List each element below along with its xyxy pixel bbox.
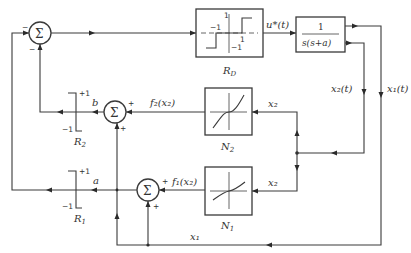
- nonlinear-block-n1: [205, 167, 252, 215]
- arrow-icon: [290, 31, 296, 36]
- label-n1: N1: [220, 220, 234, 233]
- svg-text:−: −: [29, 45, 35, 54]
- arrow-icon: [89, 31, 95, 36]
- arrow-icon: [295, 130, 300, 136]
- svg-text:+: +: [128, 99, 134, 108]
- svg-text:+: +: [162, 177, 168, 186]
- arrow-icon: [159, 188, 165, 193]
- svg-text:Σ: Σ: [110, 106, 118, 120]
- svg-text:+1: +1: [79, 89, 90, 98]
- svg-text:Σ: Σ: [143, 184, 151, 198]
- svg-text:−1: −1: [62, 125, 73, 134]
- label-f2: f₂(x₂): [149, 97, 175, 108]
- label-r2: R2: [73, 136, 87, 149]
- svg-text:1: 1: [240, 35, 245, 44]
- label-u-star: u*(t): [266, 19, 289, 30]
- svg-text:s(s+a): s(s+a): [302, 38, 332, 48]
- arrow-icon: [252, 189, 258, 194]
- label-x2-t: x₂(t): [331, 83, 353, 94]
- svg-text:+1: +1: [79, 167, 90, 176]
- label-b: b: [92, 97, 98, 108]
- label-rd: RD: [222, 65, 237, 78]
- arrow-icon: [295, 165, 300, 171]
- svg-text:+: +: [120, 124, 126, 133]
- signal-line-x2: [297, 43, 364, 153]
- label-n2: N2: [220, 141, 235, 154]
- arrow-icon: [115, 123, 120, 129]
- arrow-icon: [352, 24, 358, 29]
- arrow-icon: [115, 213, 120, 219]
- relay-r1: +1 −1: [62, 167, 90, 211]
- arrow-icon: [346, 41, 352, 46]
- arrow-icon: [46, 188, 52, 193]
- arrow-icon: [362, 89, 367, 95]
- arrow-icon: [57, 110, 63, 115]
- plant-transfer-function: 1 s(s+a): [296, 17, 345, 52]
- arrow-icon: [190, 31, 196, 36]
- svg-text:−1: −1: [210, 23, 221, 32]
- svg-text:Σ: Σ: [35, 27, 43, 41]
- label-a: a: [93, 175, 99, 186]
- summer-main: Σ − −: [22, 22, 51, 54]
- svg-text:−: −: [22, 23, 28, 32]
- summer-lower: Σ + +: [137, 177, 168, 211]
- arrow-icon: [379, 92, 384, 98]
- arrow-icon: [92, 110, 98, 115]
- svg-text:+: +: [153, 202, 159, 211]
- block-diagram: Σ − − 1 −1 −1 1 RD u*(t) 1 s(s+a) x₁(t) …: [0, 0, 411, 253]
- label-x1-t: x₁(t): [387, 83, 409, 94]
- arrow-icon: [146, 201, 151, 207]
- arrow-icon: [126, 110, 132, 115]
- arrow-icon: [91, 188, 97, 193]
- svg-text:1: 1: [224, 11, 229, 20]
- arrow-icon: [252, 110, 258, 115]
- svg-text:1: 1: [318, 22, 324, 32]
- label-r1: R1: [73, 213, 86, 226]
- arrow-icon: [331, 151, 337, 156]
- label-x1-bottom: x₁: [190, 231, 200, 242]
- svg-text:−1: −1: [231, 43, 242, 52]
- svg-text:−1: −1: [62, 202, 73, 211]
- label-x2-n1: x₂: [268, 177, 278, 188]
- arrow-icon: [38, 44, 43, 50]
- label-f1: f₁(x₂): [171, 176, 197, 187]
- arrow-icon: [266, 243, 272, 248]
- summer-middle: Σ + +: [104, 99, 134, 133]
- nonlinear-block-n2: [205, 88, 252, 135]
- label-x2-n2: x₂: [268, 98, 278, 109]
- signal-line-x2-to-n2: [252, 112, 297, 153]
- relay-block-rd: 1 −1 −1 1: [196, 9, 263, 57]
